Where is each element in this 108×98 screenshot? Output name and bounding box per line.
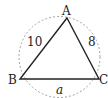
vertex-label-c: C	[99, 73, 108, 87]
side-label-bc: a	[56, 83, 63, 97]
vertex-label-b: B	[8, 73, 17, 87]
vertex-label-a: A	[61, 4, 71, 18]
triangle-diagram: A B C 10 8 a	[0, 0, 108, 98]
side-label-ac: 8	[88, 35, 96, 49]
side-label-ab: 10	[27, 35, 42, 49]
